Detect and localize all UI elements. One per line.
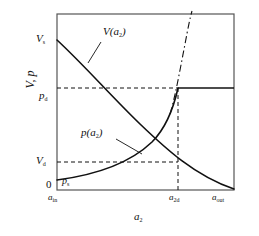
V-curve-open: V(	[103, 25, 113, 37]
p-label-leader-line	[116, 139, 142, 154]
y-tick-label-zero: 0	[46, 179, 52, 190]
x-tick-a-in-var: a	[48, 192, 53, 202]
V-curve-annotation: V(a2)	[103, 26, 126, 37]
figure-container: V, p a2 Vs pd Vd 0 ps ain a2d aout V(a2)…	[0, 0, 259, 236]
y-tick-label-Vd: Vd	[36, 155, 46, 166]
p-extension-dashdot-curve	[170, 11, 192, 114]
x-tick-a-out-sub: out	[217, 197, 225, 203]
y-tick-pd-sub: d	[45, 96, 48, 102]
y-axis-title-V: V	[23, 83, 37, 89]
y-tick-label-Vs: Vs	[36, 33, 45, 44]
x-tick-a-out-var: a	[212, 192, 217, 202]
V-curve-close: )	[122, 25, 126, 37]
x-tick-label-a-out: aout	[212, 193, 224, 202]
y-tick-Vs-var: V	[36, 32, 43, 44]
x-tick-label-a-2d: a2d	[169, 193, 180, 202]
x-axis-title: a2	[134, 211, 143, 222]
ps-inline-label: ps	[62, 176, 69, 186]
p-curve-annotation: p(a2)	[81, 127, 102, 138]
y-axis-title-p: p	[23, 71, 37, 77]
y-axis-title-comma: ,	[23, 77, 37, 83]
x-tick-a-in-sub: in	[53, 197, 58, 203]
V-curve-sub: 2	[119, 32, 122, 38]
y-tick-Vd-sub: d	[43, 161, 46, 167]
x-axis-title-var: a	[134, 210, 140, 222]
x-tick-a-2d-sub: 2d	[174, 197, 180, 203]
ps-sub: s	[67, 181, 69, 187]
p-curve-close: )	[99, 126, 103, 138]
p-curve-var: a	[90, 126, 96, 138]
y-tick-Vd-var: V	[36, 154, 43, 166]
x-tick-label-a-in: ain	[48, 193, 57, 202]
p-curve-open: p(	[81, 126, 90, 138]
y-axis-title: V, p	[23, 52, 38, 108]
x-tick-a-2d-var: a	[169, 192, 174, 202]
V-label-leader-line	[88, 42, 101, 63]
V-curve	[57, 40, 234, 189]
y-tick-label-pd: pd	[39, 90, 48, 101]
plot-frame	[57, 14, 234, 190]
y-tick-Vs-sub: s	[43, 39, 45, 45]
x-axis-title-sub: 2	[140, 217, 143, 223]
y-tick-pd-var: p	[39, 89, 45, 101]
p-curve-sub: 2	[96, 133, 99, 139]
